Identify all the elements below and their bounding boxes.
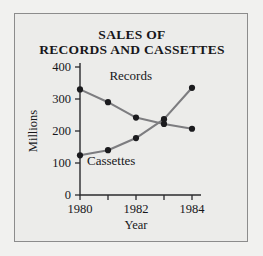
data-point-cassettes-1984 — [189, 85, 195, 91]
data-point-cassettes-1980 — [77, 152, 83, 158]
line-chart-svg: 0100200300400 198019821984 RecordsCasset… — [15, 14, 249, 243]
y-axis-title: Millions — [26, 110, 40, 153]
data-point-records-1984 — [189, 126, 195, 132]
screenshot-page: SALES OF RECORDS AND CASSETTES 010020030… — [0, 0, 263, 256]
y-tick-label: 400 — [52, 60, 71, 74]
y-tick-label: 0 — [65, 188, 71, 202]
x-tick-label: 1984 — [180, 202, 206, 216]
x-axis-title: Year — [124, 218, 148, 232]
data-point-cassettes-1982 — [133, 135, 139, 141]
chart-series-labels: RecordsCassettes — [87, 68, 152, 168]
data-point-records-1981 — [105, 99, 111, 105]
data-point-records-1982 — [133, 114, 139, 120]
y-tick-label: 200 — [52, 124, 71, 138]
chart-figure-frame: SALES OF RECORDS AND CASSETTES 010020030… — [14, 13, 248, 242]
series-label-records: Records — [109, 68, 152, 83]
y-tick-label: 300 — [52, 92, 71, 106]
x-tick-label: 1982 — [124, 202, 149, 216]
series-label-cassettes: Cassettes — [87, 153, 135, 168]
chart-series — [77, 85, 195, 159]
x-axis-ticks: 198019821984 — [68, 195, 206, 216]
plot-area: 0100200300400 198019821984 RecordsCasset… — [15, 14, 249, 243]
data-point-cassettes-1983 — [161, 116, 167, 122]
data-point-records-1980 — [77, 86, 83, 92]
y-tick-label: 100 — [52, 156, 71, 170]
y-axis-ticks: 0100200300400 — [52, 60, 80, 202]
series-line-records — [80, 89, 192, 128]
x-tick-label: 1980 — [68, 202, 93, 216]
